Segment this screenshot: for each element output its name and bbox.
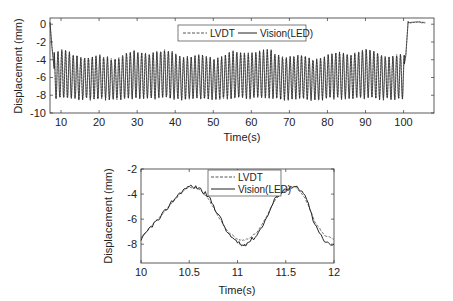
y-tick-label: -2 bbox=[127, 163, 137, 175]
top-y-axis-title: Displacement (mm) bbox=[12, 18, 24, 113]
x-tick-label: 70 bbox=[283, 116, 295, 128]
x-tick-label: 10 bbox=[135, 266, 147, 278]
top-legend: LVDT Vision(LED) bbox=[178, 25, 313, 41]
top-x-axis-title: Time(s) bbox=[224, 131, 261, 143]
y-tick-label: -8 bbox=[36, 89, 46, 101]
y-tick-label: 0 bbox=[40, 18, 46, 30]
top-chart: 102030405060708090100 0-2-4-6-8-10 Time(… bbox=[12, 18, 434, 143]
bottom-x-axis-title: Time(s) bbox=[219, 284, 256, 296]
x-tick-label: 20 bbox=[93, 116, 105, 128]
y-tick-label: -4 bbox=[127, 188, 137, 200]
y-tick-label: -8 bbox=[127, 238, 137, 250]
legend-lvdt-label: LVDT bbox=[238, 172, 263, 183]
legend-lvdt-label: LVDT bbox=[210, 28, 235, 39]
x-tick-label: 40 bbox=[169, 116, 181, 128]
bottom-legend: LVDT Vision(LED) bbox=[208, 170, 291, 196]
bottom-chart: 1010.51111.512 -2-4-6-8 Time(s) Displace… bbox=[102, 163, 340, 296]
y-tick-label: -6 bbox=[36, 71, 46, 83]
y-tick-label: -2 bbox=[36, 36, 46, 48]
x-tick-label: 10.5 bbox=[179, 266, 200, 278]
x-tick-label: 90 bbox=[359, 116, 371, 128]
x-tick-label: 50 bbox=[207, 116, 219, 128]
y-tick-label: -4 bbox=[36, 54, 46, 66]
x-tick-label: 100 bbox=[394, 116, 412, 128]
legend-vision-label: Vision(LED) bbox=[260, 28, 313, 39]
x-tick-label: 11.5 bbox=[275, 266, 296, 278]
y-tick-label: -10 bbox=[30, 107, 46, 119]
x-tick-label: 10 bbox=[55, 116, 67, 128]
x-tick-label: 30 bbox=[131, 116, 143, 128]
x-tick-label: 60 bbox=[245, 116, 257, 128]
y-tick-label: -6 bbox=[127, 213, 137, 225]
x-tick-label: 80 bbox=[321, 116, 333, 128]
bottom-y-axis-title: Displacement (mm) bbox=[102, 168, 114, 263]
x-tick-label: 12 bbox=[328, 266, 340, 278]
x-tick-label: 11 bbox=[232, 266, 243, 278]
legend-vision-label: Vision(LED) bbox=[238, 184, 291, 195]
figure: 102030405060708090100 0-2-4-6-8-10 Time(… bbox=[0, 0, 453, 301]
